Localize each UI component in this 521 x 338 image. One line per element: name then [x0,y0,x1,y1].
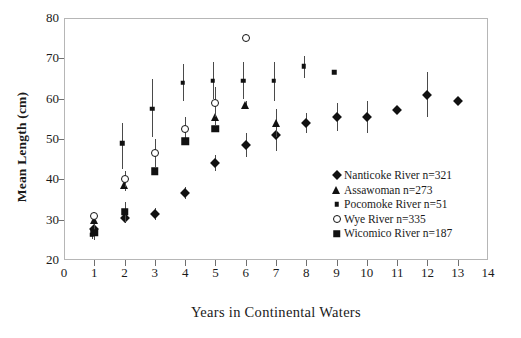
x-axis-tick-mark [337,260,338,266]
legend-marker-icon [330,212,343,227]
x-axis-tick-mark [246,260,247,266]
y-axis-tick-label: 80 [29,11,59,24]
data-point [211,78,216,83]
data-point [151,168,159,176]
data-point [302,64,307,69]
data-point [242,34,250,42]
data-point [90,212,98,220]
x-axis-tick-label: 12 [415,266,439,279]
x-axis-tick-label: 2 [113,266,137,279]
x-axis-tick-mark [215,260,216,266]
x-axis-tick-mark [397,260,398,266]
legend-item-label: Assawoman n=273 [343,183,433,198]
x-axis-tick-label: 6 [234,266,258,279]
x-axis-tick-mark [125,260,126,266]
y-axis-tick-mark [58,139,64,140]
x-axis-tick-label: 8 [294,266,318,279]
error-bar [122,123,123,169]
x-axis-tick-label: 0 [52,266,76,279]
legend-marker-glyph [333,230,341,238]
data-point [150,107,155,112]
x-axis-tick-label: 7 [264,266,288,279]
legend: Nanticoke River n=321Assawoman n=273Poco… [330,168,452,241]
legend-marker-icon [330,197,343,212]
data-point [241,78,246,83]
x-axis-tick-mark [94,260,95,266]
y-axis-tick-label: 50 [29,132,59,145]
data-point [91,229,99,237]
legend-item: Wye River n=335 [330,212,452,227]
figure: Mean Length (cm) 20304050607080012345678… [0,0,521,338]
data-point [120,141,125,146]
data-point [332,70,337,75]
y-axis-tick-label: 60 [29,92,59,105]
data-point [151,149,159,157]
y-axis-tick-label: 20 [29,253,59,266]
x-axis-tick-label: 1 [82,266,106,279]
x-axis-tick-label: 13 [446,266,470,279]
y-axis-tick-label: 70 [29,51,59,64]
legend-item-label: Pocomoke River n=51 [343,197,448,212]
x-axis-tick-mark [276,260,277,266]
x-axis-tick-label: 11 [385,266,409,279]
y-axis-tick-mark [58,58,64,59]
data-point [211,99,219,107]
legend-item-label: Nanticoke River n=321 [343,168,452,183]
data-point [241,101,249,109]
legend-marker-glyph [334,202,339,207]
x-axis-tick-label: 9 [325,266,349,279]
legend-item-label: Wye River n=335 [343,212,426,227]
y-axis-title: Mean Length (cm) [14,47,30,247]
y-axis-tick-label: 40 [29,172,59,185]
data-point [121,208,129,216]
data-point [212,125,220,133]
data-point [272,119,280,127]
legend-marker-icon [330,226,343,241]
x-axis-tick-mark [306,260,307,266]
x-axis-title: Years in Continental Waters [64,304,488,321]
legend-marker-glyph [332,170,342,180]
data-point [181,125,189,133]
x-axis-tick-mark [367,260,368,266]
data-point [271,78,276,83]
x-axis-tick-mark [155,260,156,266]
y-axis-tick-mark [58,179,64,180]
data-point [180,80,185,85]
legend-item: Pocomoke River n=51 [330,197,452,212]
x-axis-tick-mark [427,260,428,266]
x-axis-tick-mark [185,260,186,266]
y-axis-tick-mark [58,220,64,221]
legend-item-label: Wicomico River n=187 [343,226,452,241]
x-axis-tick-label: 3 [143,266,167,279]
legend-item: Nanticoke River n=321 [330,168,452,183]
legend-item: Wicomico River n=187 [330,226,452,241]
legend-marker-glyph [333,215,341,223]
x-axis-tick-label: 10 [355,266,379,279]
data-point [181,137,189,145]
x-axis-tick-mark [458,260,459,266]
legend-marker-glyph [332,186,340,194]
y-axis-tick-mark [58,99,64,100]
data-point [121,175,129,183]
x-axis-tick-label: 4 [173,266,197,279]
x-axis-tick-label: 5 [203,266,227,279]
legend-marker-icon [330,168,343,183]
y-axis-tick-label: 30 [29,213,59,226]
legend-marker-icon [330,183,343,198]
x-axis-tick-label: 14 [476,266,500,279]
legend-item: Assawoman n=273 [330,183,452,198]
